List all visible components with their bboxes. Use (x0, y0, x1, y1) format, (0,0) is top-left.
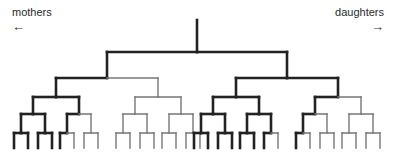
pedigree-tree (0, 0, 399, 157)
